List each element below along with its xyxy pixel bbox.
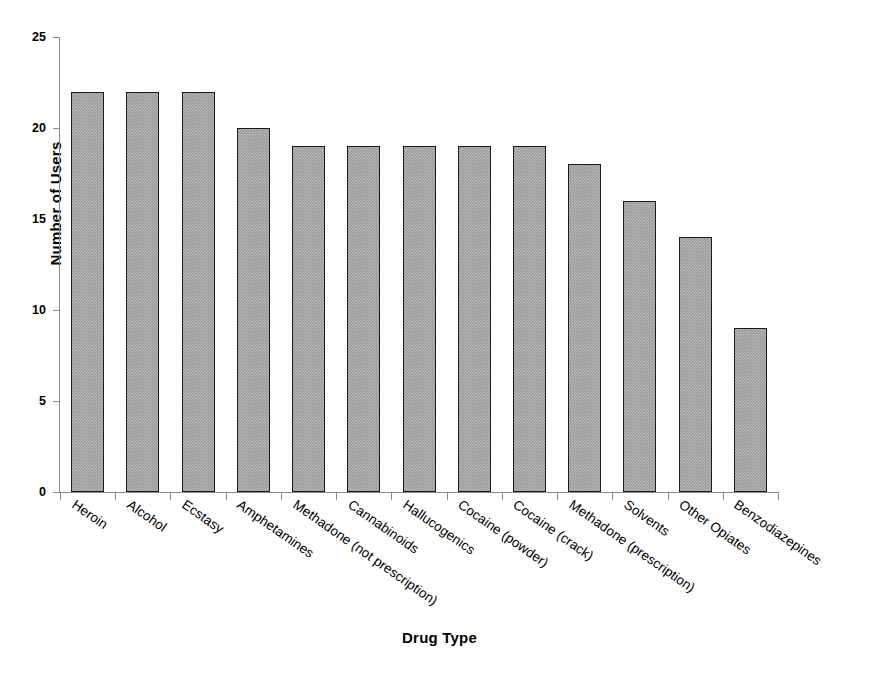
bar [458,146,491,492]
bar [292,146,325,492]
y-tick-mark [53,128,60,129]
bar [513,146,546,492]
y-tick-mark [53,219,60,220]
y-tick-label: 5 [39,394,46,408]
y-tick-label: 25 [32,30,46,44]
x-tick-label: Heroin [69,497,110,532]
x-axis-line [59,492,779,493]
bar-chart: Number of Users 0510152025 HeroinAlcohol… [0,0,879,673]
y-tick-mark [53,37,60,38]
y-tick-mark [53,401,60,402]
x-axis-title: Drug Type [0,629,879,646]
bar [182,92,215,492]
y-tick-label: 15 [32,212,46,226]
y-tick-mark [53,492,60,493]
bar [403,146,436,492]
plot-area [60,37,778,492]
bar [679,237,712,492]
x-tick-label: Alcohol [124,497,169,535]
y-axis-tick-labels: 0510152025 [0,37,60,492]
bar [568,164,601,492]
bar [126,92,159,492]
x-axis-tick-labels: HeroinAlcoholEcstasyAmphetaminesMethadon… [60,497,820,627]
bar [347,146,380,492]
bar [237,128,270,492]
bar [623,201,656,492]
bar [734,328,767,492]
x-tick-label: Cocaine (powder) [455,497,551,570]
y-tick-mark [53,310,60,311]
bar-series [60,37,778,492]
x-tick-label: Ecstasy [179,497,226,536]
bar [71,92,104,492]
x-tick-label: Solvents [621,497,672,539]
x-tick-label: Benzodiazepines [731,497,824,568]
y-tick-label: 10 [32,303,46,317]
y-tick-label: 0 [39,485,46,499]
y-tick-label: 20 [32,121,46,135]
